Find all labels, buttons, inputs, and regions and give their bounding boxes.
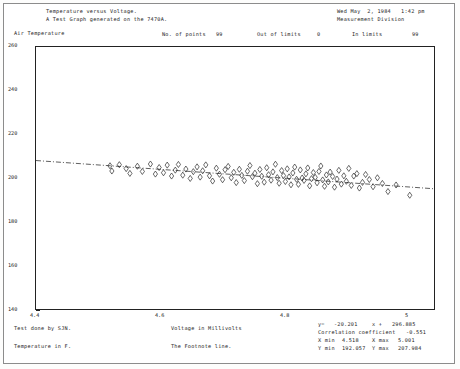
data-point-marker <box>277 180 281 186</box>
data-point-marker <box>271 169 275 175</box>
y-axis-tick-mark <box>36 310 40 311</box>
data-point-marker <box>335 176 339 182</box>
data-point-marker <box>198 174 202 180</box>
division-label: Measurement Division <box>337 17 404 22</box>
correlation-label: Correlation coefficient <box>318 330 396 335</box>
screenshot-page: Temperature versus Voltage. A Test Graph… <box>0 0 460 369</box>
fit-equation-x-label: x + <box>372 322 382 327</box>
data-point-marker <box>207 173 211 179</box>
data-point-marker <box>161 170 165 176</box>
data-point-marker <box>229 175 233 181</box>
data-point-marker <box>195 164 199 170</box>
data-point-marker <box>291 170 295 176</box>
data-point-marker <box>173 167 177 173</box>
data-point-marker <box>287 174 291 180</box>
plot-subtitle: A Test Graph generated on the 7470A. <box>46 17 167 22</box>
timestamp: Wed May 2, 1984 1:42 pm <box>337 9 425 14</box>
data-point-marker <box>324 172 328 178</box>
data-point-marker <box>237 166 241 172</box>
data-point-marker <box>169 173 173 179</box>
data-point-marker <box>181 172 185 178</box>
data-point-marker <box>262 179 266 185</box>
fit-equation-y-label: y= <box>318 322 325 327</box>
data-point-marker <box>319 163 323 169</box>
data-point-marker <box>255 181 259 187</box>
data-point-marker <box>283 178 287 184</box>
y-axis-tick-label: 220 <box>8 131 17 136</box>
data-point-marker <box>306 165 310 171</box>
data-point-marker <box>265 165 269 171</box>
scatter-plot-canvas <box>36 47 434 309</box>
data-point-marker <box>360 179 364 185</box>
data-point-marker <box>135 163 139 169</box>
x-axis-tick-label: 4.4 <box>30 313 39 318</box>
y-axis-tick-label: 140 <box>8 307 17 312</box>
data-point-marker <box>304 171 308 177</box>
x-axis-tick-label: 4.8 <box>280 313 289 318</box>
data-point-marker <box>293 164 297 170</box>
x-min-value: 4.518 <box>342 338 359 343</box>
data-point-marker <box>309 176 313 182</box>
data-point-marker <box>165 162 169 168</box>
in-limits-label: In limits <box>352 32 382 37</box>
out-of-limits-label: Out of limits <box>257 32 301 37</box>
data-point-marker <box>128 170 132 176</box>
in-limits-value: 99 <box>412 32 419 37</box>
data-point-marker <box>234 180 238 186</box>
data-point-marker <box>232 169 236 175</box>
y-max-value: 207.984 <box>398 346 422 351</box>
plot-title: Temperature versus Voltage. <box>46 9 137 14</box>
data-point-marker <box>148 161 152 167</box>
data-point-marker <box>273 161 277 167</box>
fit-equation-slope: -20.201 <box>334 322 358 327</box>
x-max-label: X max <box>372 338 389 343</box>
data-point-marker <box>357 185 361 191</box>
data-point-marker <box>328 169 332 175</box>
y-axis-tick-label: 240 <box>8 87 17 92</box>
data-point-marker <box>375 175 379 181</box>
data-point-marker <box>110 168 114 174</box>
data-point-marker <box>242 178 246 184</box>
data-point-marker <box>220 177 224 183</box>
data-point-marker <box>344 178 348 184</box>
data-point-marker <box>322 183 326 189</box>
data-point-marker <box>342 173 346 179</box>
data-point-marker <box>269 177 273 183</box>
y-min-value: 192.057 <box>342 346 366 351</box>
data-point-marker <box>245 168 249 174</box>
temperature-units-note: Temperature in F. <box>14 344 71 349</box>
correlation-value: -0.551 <box>406 330 426 335</box>
x-axis-caption: Voltage in Millivolts <box>171 326 242 331</box>
data-point-marker <box>285 166 289 172</box>
data-point-marker <box>380 180 384 186</box>
y-axis-tick-label: 180 <box>8 219 17 224</box>
y-max-label: Y max <box>372 346 389 351</box>
data-point-marker <box>363 171 367 177</box>
data-point-marker <box>337 167 341 173</box>
x-max-value: 5.001 <box>398 338 415 343</box>
plot-frame <box>35 46 435 310</box>
x-axis-tick-label: 5 <box>405 313 408 318</box>
data-point-marker <box>188 175 192 181</box>
x-min-label: X min <box>318 338 335 343</box>
y-axis-tick-label: 200 <box>8 175 17 180</box>
data-point-marker <box>176 161 180 167</box>
test-author-note: Test done by SJN. <box>14 326 71 331</box>
data-point-marker <box>140 168 144 174</box>
data-point-marker <box>214 165 218 171</box>
data-point-marker <box>332 184 336 190</box>
data-point-marker <box>386 188 390 194</box>
data-point-marker <box>201 168 205 174</box>
data-point-marker <box>308 183 312 189</box>
data-point-marker <box>394 182 398 188</box>
data-points <box>108 161 412 198</box>
data-point-marker <box>117 162 121 168</box>
data-point-marker <box>124 166 128 172</box>
data-point-marker <box>408 192 412 198</box>
y-axis-tick-label: 260 <box>8 43 17 48</box>
x-axis-tick-label: 4.6 <box>155 313 164 318</box>
data-point-marker <box>217 171 221 177</box>
data-point-marker <box>347 165 351 171</box>
data-point-marker <box>331 173 335 179</box>
fit-equation-intercept: 296.885 <box>392 322 416 327</box>
